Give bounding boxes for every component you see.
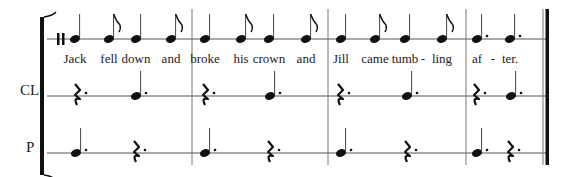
augmentation-dot xyxy=(144,149,147,152)
augmentation-dot xyxy=(519,35,522,38)
staff-label-p: P xyxy=(26,139,34,156)
augmentation-dot xyxy=(486,35,489,38)
augmentation-dot xyxy=(145,92,148,95)
lyric-hyphen: - xyxy=(421,51,425,67)
augmentation-dot xyxy=(520,92,523,95)
augmentation-dot xyxy=(85,92,88,95)
lyric-syllable: and xyxy=(162,51,181,67)
quarter-rest-icon xyxy=(508,141,513,162)
quarter-rest-icon xyxy=(134,141,139,162)
lyric-syllable: came xyxy=(361,51,388,67)
percussion-clef-icon xyxy=(57,33,60,45)
final-barline-thick xyxy=(546,9,550,165)
augmentation-dot xyxy=(518,149,521,152)
lyric-syllable: crown xyxy=(253,51,286,67)
bracket-bottom-hook xyxy=(44,175,56,177)
eighth-flag-icon xyxy=(246,14,253,32)
quarter-rest-icon xyxy=(203,84,208,105)
system-bracket xyxy=(40,17,44,175)
quarter-rest-icon xyxy=(405,141,410,162)
lyric-syllable: ter. xyxy=(502,51,518,67)
lyric-syllable: and xyxy=(297,51,316,67)
augmentation-dot xyxy=(415,149,418,152)
quarter-rest-icon xyxy=(268,141,273,162)
lyric-syllable: tumb xyxy=(392,51,419,67)
percussion-clef-icon xyxy=(62,33,65,45)
lyric-syllable: Jill xyxy=(333,51,349,67)
augmentation-dot xyxy=(214,149,217,152)
eighth-flag-icon xyxy=(311,14,318,32)
augmentation-dot xyxy=(278,149,281,152)
augmentation-dot xyxy=(416,92,419,95)
lyric-syllable: fell xyxy=(100,51,117,67)
augmentation-dot xyxy=(85,149,88,152)
augmentation-dot xyxy=(484,92,487,95)
lyric-syllable: his xyxy=(233,51,248,67)
eighth-flag-icon xyxy=(176,14,183,32)
lyric-syllable: ling xyxy=(432,51,452,67)
music-score xyxy=(0,0,565,177)
staff-label-cl: CL xyxy=(20,82,39,99)
augmentation-dot xyxy=(348,92,351,95)
lyric-syllable: Jack xyxy=(63,51,86,67)
augmentation-dot xyxy=(213,92,216,95)
augmentation-dot xyxy=(486,149,489,152)
quarter-rest-icon xyxy=(75,84,80,105)
lyric-syllable: broke xyxy=(190,51,220,67)
augmentation-dot xyxy=(350,149,353,152)
eighth-flag-icon xyxy=(380,14,387,32)
quarter-rest-icon xyxy=(338,84,343,105)
bracket-top-hook xyxy=(44,12,56,17)
augmentation-dot xyxy=(279,92,282,95)
eighth-flag-icon xyxy=(114,14,121,32)
lyric-syllable: af xyxy=(472,51,482,67)
lyric-hyphen: - xyxy=(491,51,495,67)
lyric-syllable: down xyxy=(122,51,151,67)
quarter-rest-icon xyxy=(474,84,479,105)
eighth-flag-icon xyxy=(447,14,454,32)
